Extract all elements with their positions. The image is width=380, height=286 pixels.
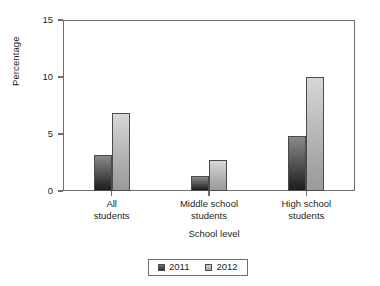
bar-2012-3 [306,77,324,191]
x-axis-tick-mark [111,191,112,196]
bar-2011-1 [94,155,112,191]
legend-swatch-2012 [205,264,212,271]
bar-2011-2 [191,176,209,191]
x-axis-tick-mark [306,191,307,196]
y-axis-tick-label: 10 [42,71,53,82]
bar-2012-2 [209,160,227,191]
y-axis-tick-label: 15 [42,14,53,25]
bar-2011-3 [288,136,306,191]
x-axis-tick-label: Allstudents [57,198,167,221]
y-axis-tick-label: 0 [48,185,53,196]
x-axis-tick-mark [208,191,209,196]
y-axis-tick-mark [58,19,63,20]
y-axis-title-text: Percentage [10,70,21,86]
x-axis-tick-label: Middle schoolstudents [154,198,264,221]
x-axis-title-text: School level [188,228,239,239]
x-axis-title: School level [0,228,380,239]
legend: 20112012 [148,259,248,276]
x-axis-tick-label: High schoolstudents [251,198,361,221]
legend-label-2012: 2012 [216,262,237,272]
legend-item-2012: 2012 [205,262,237,272]
y-axis-tick-mark [58,190,63,191]
legend-item-2011: 2011 [158,262,189,272]
bar-chart: Percentage 051015 AllstudentsMiddle scho… [0,0,380,286]
legend-swatch-2011 [158,264,165,271]
bar-2012-1 [112,113,130,191]
y-axis-tick-mark [58,133,63,134]
y-axis-tick-mark [58,76,63,77]
y-axis-title: Percentage [10,62,21,78]
y-axis-tick-label: 5 [48,128,53,139]
legend-label-2011: 2011 [169,262,189,272]
